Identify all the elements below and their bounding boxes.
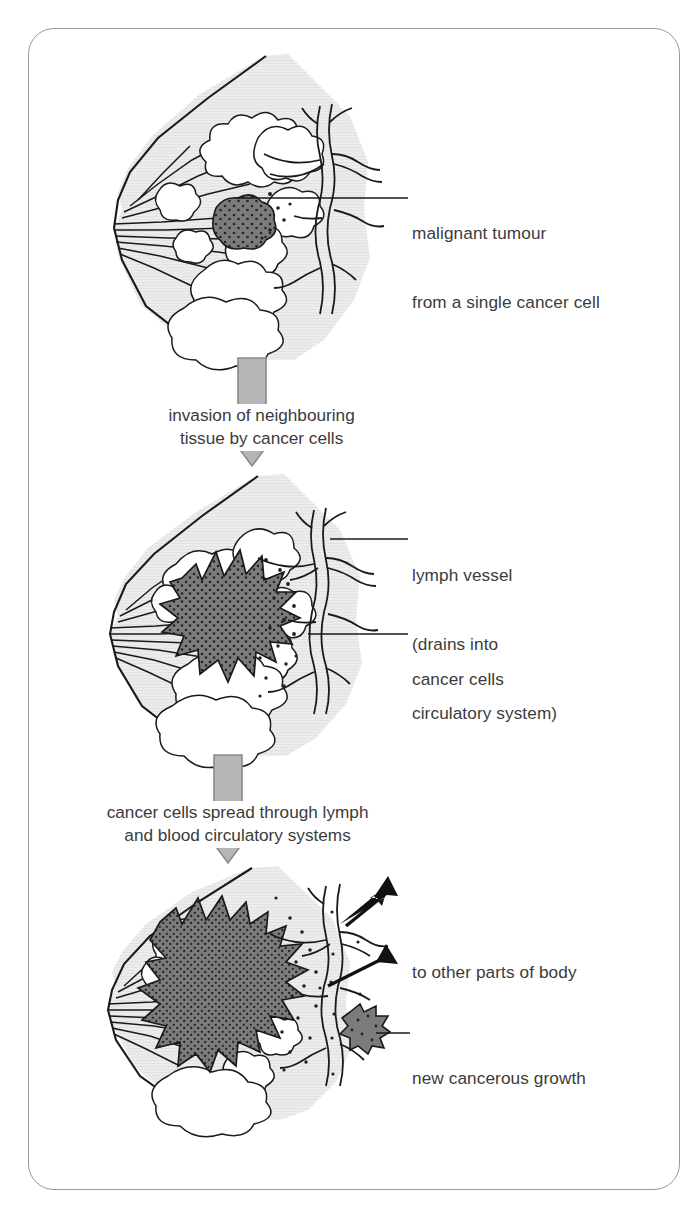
label-cancer-cells: cancer cells — [412, 622, 504, 714]
label-malignant-tumour-line-2: from a single cancer cell — [412, 291, 600, 314]
label-lymph-vessel-line-1: lymph vessel — [412, 564, 557, 587]
leader-lymph-vessel — [330, 531, 412, 547]
label-new-cancerous-growth: new cancerous growth — [412, 1021, 586, 1113]
stage-arrow-spread-line-2: and blood circulatory systems — [121, 824, 353, 848]
breast-cross-section-stage-2-svg — [88, 468, 388, 758]
stage-arrow-invasion-line-2: tissue by cancer cells — [177, 427, 346, 451]
label-to-other-parts-of-body: to other parts of body — [412, 915, 577, 1007]
label-new-cancerous-growth-line-1: new cancerous growth — [412, 1067, 586, 1090]
label-to-other-parts-of-body-line-1: to other parts of body — [412, 961, 577, 984]
spread-arrow-upper — [340, 876, 398, 926]
stage-arrow-spread-text: cancer cells spread through lymph and bl… — [42, 777, 414, 871]
breast-cross-section-stage-3-svg — [88, 862, 408, 1122]
label-malignant-tumour-line-1: malignant tumour — [412, 222, 600, 245]
label-cancer-cells-line-1: cancer cells — [412, 668, 504, 691]
stage-arrow-spread: cancer cells spread through lymph and bl… — [128, 755, 328, 867]
stage-arrow-invasion-line-1: invasion of neighbouring — [165, 404, 357, 428]
leader-malignant-tumour — [236, 190, 412, 206]
leader-cancer-cells — [308, 626, 412, 642]
panel-3-breast-diagram — [88, 862, 408, 1122]
leader-new-cancerous-growth — [376, 1025, 414, 1041]
stage-arrow-spread-line-1: cancer cells spread through lymph — [104, 801, 372, 825]
label-malignant-tumour: malignant tumour from a single cancer ce… — [412, 176, 600, 337]
stage-arrow-invasion-text: invasion of neighbouring tissue by cance… — [100, 380, 404, 474]
stage-arrow-invasion: invasion of neighbouring tissue by cance… — [152, 358, 352, 470]
panel-2-breast-diagram — [88, 468, 388, 758]
